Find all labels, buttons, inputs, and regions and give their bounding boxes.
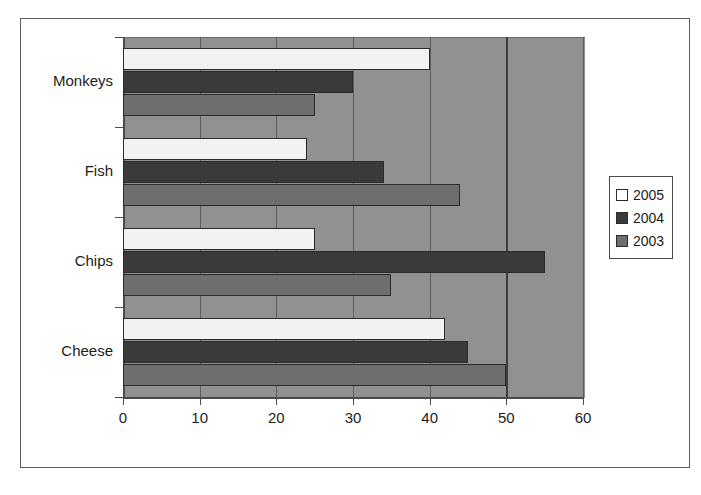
x-tick-60 [583,397,584,405]
bar-cheese-2004 [123,341,468,363]
chart-legend: 200520042003 [609,176,673,259]
x-tick-label-30: 30 [333,409,373,426]
x-tick-label-0: 0 [103,409,143,426]
bar-monkeys-2004 [123,71,353,93]
x-tick-0 [123,397,124,405]
x-tick-20 [276,397,277,405]
chart-canvas: 0102030405060 MonkeysFishChipsCheese 200… [21,19,691,469]
y-tick-1 [115,127,123,128]
gridline-x-60 [583,37,584,397]
x-tick-label-20: 20 [256,409,296,426]
bar-chips-2005 [123,228,315,250]
legend-item-2004: 2004 [616,206,666,229]
category-label-chips: Chips [75,252,113,269]
x-tick-label-10: 10 [180,409,220,426]
category-label-fish: Fish [85,162,113,179]
bar-fish-2003 [123,184,460,206]
bar-chips-2004 [123,251,545,273]
x-tick-label-50: 50 [486,409,526,426]
x-tick-10 [200,397,201,405]
x-tick-label-60: 60 [563,409,603,426]
x-tick-30 [353,397,354,405]
legend-label-2003: 2003 [633,234,664,248]
y-tick-2 [115,217,123,218]
y-tick-0 [115,37,123,38]
bar-fish-2004 [123,161,384,183]
bar-cheese-2005 [123,318,445,340]
category-label-cheese: Cheese [61,342,113,359]
legend-label-2005: 2005 [633,188,664,202]
gridline-x-50 [506,37,508,397]
legend-swatch-2003 [616,235,628,247]
legend-label-2004: 2004 [633,211,664,225]
bar-fish-2005 [123,138,307,160]
legend-item-2005: 2005 [616,183,666,206]
x-tick-40 [430,397,431,405]
legend-item-2003: 2003 [616,229,666,252]
x-tick-50 [506,397,507,405]
category-label-monkeys: Monkeys [53,72,113,89]
bar-cheese-2003 [123,364,506,386]
legend-swatch-2004 [616,212,628,224]
x-tick-label-40: 40 [410,409,450,426]
bar-monkeys-2003 [123,94,315,116]
chart-figure-frame: 0102030405060 MonkeysFishChipsCheese 200… [20,18,690,468]
bar-chips-2003 [123,274,391,296]
bar-monkeys-2005 [123,48,430,70]
legend-swatch-2005 [616,189,628,201]
y-tick-3 [115,307,123,308]
y-tick-4 [115,397,123,398]
